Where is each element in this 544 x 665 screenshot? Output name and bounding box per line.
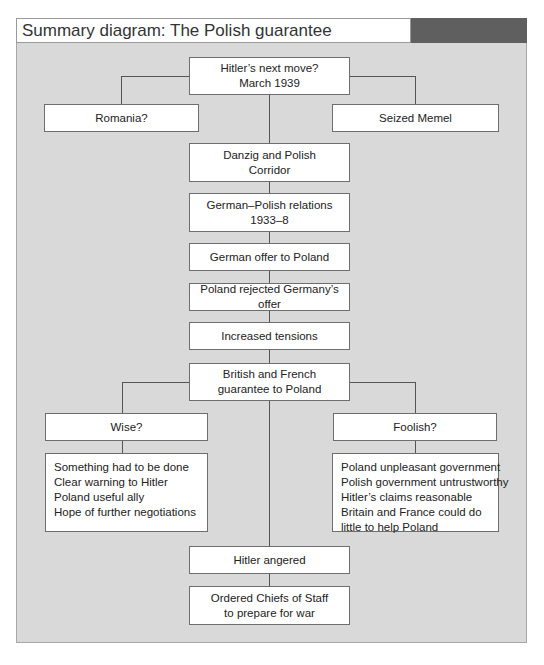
reason-item: Poland unpleasant government <box>341 460 498 475</box>
reason-item: Something had to be done <box>54 460 207 475</box>
connector-guarantee-right <box>350 382 416 383</box>
reason-item: Clear warning to Hitler <box>54 475 207 490</box>
title-accent-block <box>411 18 527 43</box>
node-text: March 1939 <box>220 76 318 91</box>
connector-top-left <box>121 76 189 77</box>
node-wise-reasons: Something had to be done Clear warning t… <box>45 453 208 532</box>
node-german-polish-relations: German–Polish relations 1933–8 <box>189 193 350 232</box>
connector-to-wise <box>122 382 123 413</box>
node-german-offer: German offer to Poland <box>189 243 350 271</box>
node-poland-rejected: Poland rejected Germany’s offer <box>189 283 350 311</box>
reason-item: Polish government untrustworthy <box>341 475 498 490</box>
node-text: Danzig and Polish <box>223 148 316 163</box>
reason-item: Hitler’s claims reasonable <box>341 490 498 505</box>
node-hitlers-next-move: Hitler’s next move? March 1939 <box>189 57 350 95</box>
node-danzig: Danzig and Polish Corridor <box>189 143 350 182</box>
connector-main-spine-lower <box>269 574 270 586</box>
reason-item: Poland useful ally <box>54 490 207 505</box>
connector-wise-reasons <box>122 441 123 453</box>
connector-to-memel <box>415 76 416 104</box>
connector-guarantee-left <box>122 382 189 383</box>
node-hitler-angered: Hitler angered <box>189 546 350 574</box>
node-text: Hitler’s next move? <box>220 61 318 76</box>
node-seized-memel: Seized Memel <box>332 104 499 132</box>
node-text: Corridor <box>223 163 316 178</box>
node-text: 1933–8 <box>207 213 333 228</box>
connector-to-foolish <box>415 382 416 413</box>
node-wise: Wise? <box>45 413 208 441</box>
reason-item: Hope of further negotiations <box>54 505 207 520</box>
node-text: Ordered Chiefs of Staff <box>211 591 328 606</box>
node-ordered-chiefs-of-staff: Ordered Chiefs of Staff to prepare for w… <box>189 586 350 625</box>
diagram-title: Summary diagram: The Polish guarantee <box>16 18 411 43</box>
node-text: guarantee to Poland <box>218 382 322 397</box>
node-british-french-guarantee: British and French guarantee to Poland <box>189 363 350 401</box>
node-text: British and French <box>218 367 322 382</box>
node-text: German–Polish relations <box>207 198 333 213</box>
connector-top-right <box>350 76 416 77</box>
node-foolish-reasons: Poland unpleasant government Polish gove… <box>332 453 499 532</box>
reason-item: Britain and France could do <box>341 505 498 520</box>
connector-foolish-reasons <box>415 441 416 453</box>
connector-to-romania <box>121 76 122 104</box>
node-foolish: Foolish? <box>333 413 497 441</box>
node-text: to prepare for war <box>211 606 328 621</box>
node-increased-tensions: Increased tensions <box>189 322 350 350</box>
reason-item: little to help Poland <box>341 520 498 535</box>
node-romania: Romania? <box>44 104 199 132</box>
